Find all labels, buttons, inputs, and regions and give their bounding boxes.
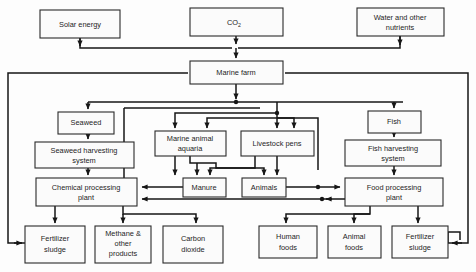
node-human-foods-label2: foods bbox=[279, 243, 297, 252]
node-carbon-dioxide-label: Carbon bbox=[181, 234, 205, 243]
node-livestock-pens-label: Livestock pens bbox=[253, 139, 302, 148]
edge-recycle-right-stub bbox=[448, 232, 460, 243]
node-seaweed-harvest-label2: system bbox=[72, 156, 95, 165]
node-methane-label: Methane & bbox=[105, 229, 141, 238]
node-manure-label: Manure bbox=[191, 183, 216, 192]
edge-farm-to-livestock-b bbox=[277, 118, 294, 128]
edge-water-to-bus bbox=[238, 36, 400, 48]
node-marine-aquaria-label: Marine animal bbox=[167, 134, 214, 143]
node-human-foods-label: Human bbox=[276, 232, 300, 241]
junction-sub-bus bbox=[275, 111, 279, 115]
node-methane-label2: other bbox=[115, 239, 132, 248]
edge-farm-to-aquaria bbox=[175, 102, 277, 128]
node-marine-aquaria-label2: aquaria bbox=[178, 144, 204, 153]
edge-farm-to-aquaria-b bbox=[207, 118, 277, 128]
edge-solar-to-bus bbox=[80, 38, 232, 48]
node-solar-energy-label: Solar energy bbox=[59, 20, 101, 29]
junction-animals-food bbox=[316, 185, 320, 189]
node-seaweed-label: Seaweed bbox=[71, 118, 102, 127]
node-seaweed-harvest-label: Seaweed harvesting bbox=[51, 146, 118, 155]
node-animals-label: Animals bbox=[251, 183, 278, 192]
node-fertilizer-left-label: Fertilizer bbox=[41, 234, 70, 243]
node-chemical-plant-label: Chemical processing bbox=[52, 183, 121, 192]
node-marine-farm-label: Marine farm bbox=[216, 68, 255, 77]
node-water-nutrients-label2: nutrients bbox=[386, 23, 415, 32]
node-fish-harvest-label2: system bbox=[381, 154, 404, 163]
node-fertilizer-right-label: Fertilizer bbox=[406, 232, 435, 241]
edge-aquaria-to-animals bbox=[190, 156, 264, 175]
node-fish-label: Fish bbox=[387, 117, 401, 126]
node-animal-foods-label2: foods bbox=[345, 243, 363, 252]
diagram-canvas: Solar energy CO2 Water and other nutrien… bbox=[0, 0, 476, 272]
junction-food-return bbox=[320, 197, 324, 201]
node-food-plant-label: Food processing bbox=[367, 183, 422, 192]
node-fertilizer-right-label2: sludge bbox=[409, 243, 431, 252]
junction-distribution bbox=[234, 100, 238, 104]
node-methane-label3: products bbox=[109, 249, 138, 258]
node-fertilizer-left-label2: sludge bbox=[44, 245, 66, 254]
node-chemical-plant-label2: plant bbox=[78, 193, 94, 202]
node-fish-harvest-label: Fish harvesting bbox=[368, 144, 418, 153]
node-carbon-dioxide-label2: dioxide bbox=[181, 245, 204, 254]
edge-chemical-to-co2 bbox=[123, 206, 196, 223]
node-food-plant-label2: plant bbox=[386, 193, 402, 202]
flowchart-diagram: Solar energy CO2 Water and other nutrien… bbox=[0, 0, 476, 272]
node-water-nutrients-label: Water and other bbox=[374, 13, 427, 22]
edge-food-to-animalfoods bbox=[354, 214, 370, 223]
node-animal-foods-label: Animal bbox=[343, 232, 366, 241]
